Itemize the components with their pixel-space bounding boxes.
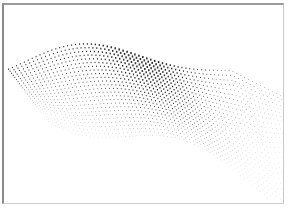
halftone-wave-graphic: [0, 0, 289, 208]
